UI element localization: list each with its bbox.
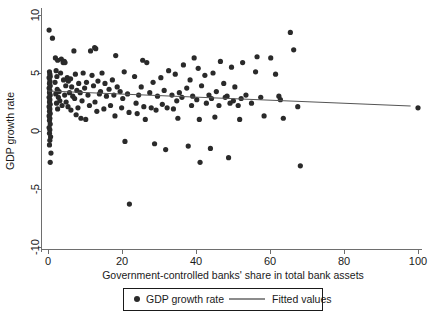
data-point [221,81,226,86]
data-point [208,146,213,151]
data-point [110,77,115,82]
data-point [59,103,64,108]
x-tick-label: 0 [45,255,51,267]
data-point [278,97,283,102]
data-point [95,79,100,84]
chart-canvas: -10-50510 GDP growth rate 020406080100 G… [0,0,429,315]
data-point [119,105,124,110]
data-point [93,46,98,51]
data-point [73,72,78,77]
data-point [165,105,170,110]
scatter-plot-figure: -10-50510 GDP growth rate 020406080100 G… [0,0,429,315]
data-point [254,54,259,59]
data-points-layer [47,27,421,206]
data-point [81,70,86,75]
data-point [197,117,202,122]
data-point [112,113,117,118]
x-tick-label: 40 [190,255,202,267]
data-point [54,68,59,73]
data-point [229,65,234,70]
data-point [82,85,87,90]
data-point [101,106,106,111]
data-point [72,96,77,101]
data-point [166,68,171,73]
data-point [212,114,217,119]
x-tick-label: 60 [264,255,276,267]
x-tick-label: 20 [116,255,128,267]
data-point [126,110,131,115]
data-point [68,108,73,113]
data-point [99,70,104,75]
data-point [64,99,69,104]
data-point [253,69,258,74]
data-point [174,98,179,103]
data-point [108,103,113,108]
data-point [415,105,420,110]
x-axis: 020406080100 Government-controlled banks… [42,250,427,281]
data-point [79,98,84,103]
data-point [139,84,144,89]
data-point [113,53,118,58]
data-point [196,66,201,71]
data-point [68,76,73,81]
data-point [173,72,178,77]
data-point [150,80,155,85]
data-point [106,87,111,92]
data-point [187,77,192,82]
data-point [144,60,149,65]
data-point [83,117,88,122]
data-point [91,83,96,88]
data-point [273,72,278,77]
data-point [171,106,176,111]
data-point [57,98,62,103]
data-point [75,105,80,110]
plot-area [47,27,421,206]
data-point [243,92,248,97]
data-point [153,108,158,113]
y-tick-label: -10 [29,239,41,255]
data-point [84,80,89,85]
data-point [197,160,202,165]
x-axis-title: Government-controlled banks' share in to… [102,269,364,281]
y-tick-label: 0 [29,128,41,134]
data-point [115,84,120,89]
data-point [135,111,140,116]
data-point [88,48,93,53]
legend-label-scatter: GDP growth rate [146,293,224,305]
x-axis-ticks: 020406080100 [45,250,427,267]
data-point [295,104,300,109]
data-point [62,92,67,97]
data-point [143,117,148,122]
data-point [163,147,168,152]
data-point [76,81,81,86]
data-point [122,139,127,144]
x-tick-label: 80 [338,255,350,267]
data-point [92,99,97,104]
data-point [74,112,79,117]
y-axis-title: GDP growth rate [4,92,16,170]
data-point [141,104,146,109]
y-axis: -10-50510 GDP growth rate [4,8,42,255]
chart-legend: GDP growth rate Fitted values [123,288,332,310]
data-point [177,90,182,95]
x-tick-label: 100 [409,255,427,267]
data-point [120,96,125,101]
data-point [186,143,191,148]
data-point [189,103,194,108]
data-point [258,95,263,100]
data-point [226,155,231,160]
data-point [52,80,57,85]
data-point [149,105,154,110]
data-point [160,102,165,107]
data-point [169,92,174,97]
data-point [288,30,293,35]
data-point [209,96,214,101]
data-point [199,83,204,88]
data-point [190,94,195,99]
data-point [214,89,219,94]
data-point [240,60,245,65]
data-point [155,94,160,99]
data-point [237,117,242,122]
data-point [47,138,52,143]
data-point [94,109,99,114]
